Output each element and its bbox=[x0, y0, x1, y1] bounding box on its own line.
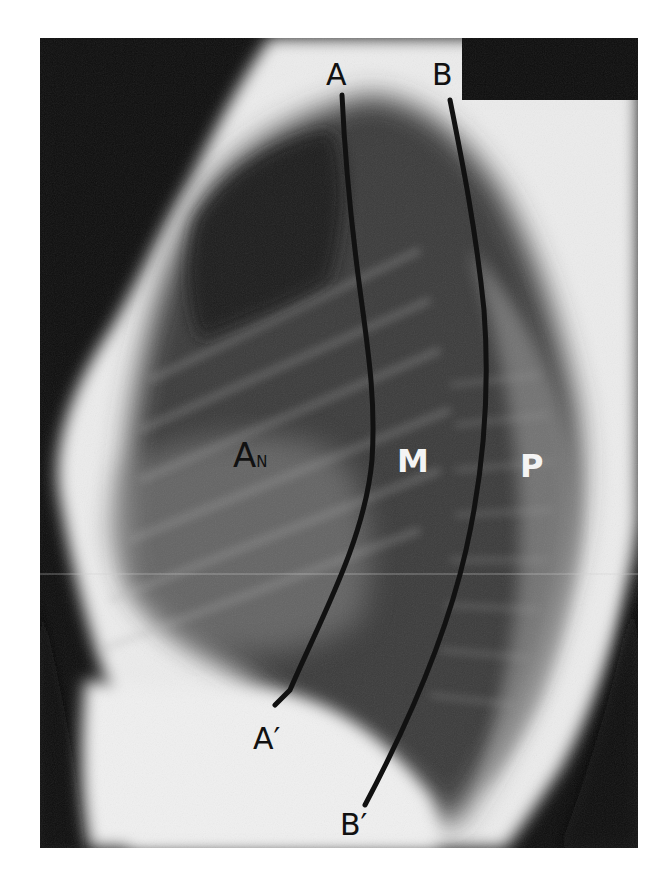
radiograph-image bbox=[0, 0, 671, 878]
label-middle-compartment: M bbox=[397, 445, 429, 477]
radiograph-figure: A B A′ B′ AN M P bbox=[0, 0, 671, 878]
label-line-b-top: B bbox=[432, 60, 453, 90]
label-anterior-main: A bbox=[233, 435, 256, 475]
label-line-a-bottom: A′ bbox=[253, 724, 280, 754]
label-posterior-compartment: P bbox=[520, 450, 543, 482]
label-line-b-bottom: B′ bbox=[340, 810, 367, 840]
label-anterior-compartment: AN bbox=[233, 438, 268, 472]
label-line-a-top: A bbox=[326, 60, 347, 90]
label-anterior-subscript: N bbox=[256, 453, 267, 471]
film-grain bbox=[40, 38, 638, 848]
